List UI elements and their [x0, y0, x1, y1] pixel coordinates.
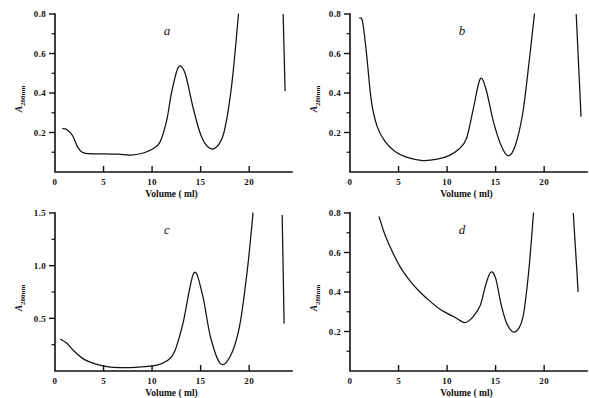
panel-a-ytick-label: 0.4 [34, 88, 46, 98]
panel-a: 0.20.40.60.805101520Volume ( ml)A280nma [0, 0, 294, 199]
panel-a-axes [55, 14, 292, 172]
panel-d-ytick-label: 0.6 [329, 248, 341, 258]
panel-d-plot: 0.20.40.60.805101520Volume ( ml)A280nmd [295, 199, 589, 398]
panel-a-letter: a [164, 23, 171, 38]
panel-b-ytick-label: 0.4 [329, 88, 341, 98]
panel-a-xtick-label: 20 [244, 177, 254, 187]
panel-d-curve [379, 213, 533, 332]
panel-a-xaxis-title: Volume ( ml) [145, 189, 197, 199]
panel-b: 0.20.40.60.805101520Volume ( ml)A280nmb [295, 0, 589, 199]
panel-d: 0.20.40.60.805101520Volume ( ml)A280nmd [295, 199, 589, 398]
panel-d-detached-segment [573, 213, 578, 292]
panel-b-ytick-label: 0.6 [329, 49, 341, 59]
panel-b-xtick-label: 15 [491, 177, 501, 187]
panel-c-xtick-label: 5 [101, 376, 106, 386]
panel-a-yaxis-title: A280nm [14, 86, 27, 114]
svg-text:A280nm: A280nm [14, 285, 27, 313]
panel-c-axes [55, 213, 292, 371]
panel-c-letter: c [164, 222, 170, 237]
panel-d-xaxis-title: Volume ( ml) [440, 388, 492, 398]
panel-c-ytick-label: 0.5 [34, 314, 46, 324]
panel-d-xtick-label: 0 [348, 376, 353, 386]
panel-c-curve [61, 213, 253, 368]
panel-b-ytick-label: 0.8 [329, 9, 341, 19]
panel-a-xtick-label: 15 [196, 177, 206, 187]
panel-d-xtick-label: 10 [442, 376, 452, 386]
panel-d-ytick-label: 0.8 [329, 208, 341, 218]
panel-a-curve [63, 14, 239, 155]
panel-b-curve [360, 14, 535, 161]
panel-a-xtick-label: 10 [147, 177, 157, 187]
panel-b-yaxis-title: A280nm [309, 86, 322, 114]
panel-a-xtick-label: 0 [53, 177, 58, 187]
svg-text:A280nm: A280nm [309, 285, 322, 313]
panel-b-xaxis-title: Volume ( ml) [440, 189, 492, 199]
panel-b-xtick-label: 0 [348, 177, 353, 187]
panel-c-xaxis-title: Volume ( ml) [145, 388, 197, 398]
panel-b-xtick-label: 20 [539, 177, 549, 187]
panel-c-xtick-label: 0 [53, 376, 58, 386]
panel-d-xtick-label: 5 [396, 376, 401, 386]
panel-b-xtick-label: 10 [442, 177, 452, 187]
panel-b-detached-segment [576, 14, 581, 117]
svg-text:A280nm: A280nm [309, 86, 322, 114]
panel-b-letter: b [459, 23, 466, 38]
panel-a-detached-segment [283, 14, 285, 91]
panel-c-xtick-label: 15 [196, 376, 206, 386]
panel-b-xtick-label: 5 [396, 177, 401, 187]
panel-a-ytick-label: 0.6 [34, 49, 46, 59]
panel-d-ytick-label: 0.4 [329, 287, 341, 297]
panel-c-detached-segment [282, 215, 284, 323]
panel-c-yaxis-title: A280nm [14, 285, 27, 313]
panel-d-yaxis-title: A280nm [309, 285, 322, 313]
panel-c: 0.51.01.505101520Volume ( ml)A280nmc [0, 199, 294, 398]
panel-b-plot: 0.20.40.60.805101520Volume ( ml)A280nmb [295, 0, 589, 199]
svg-text:A280nm: A280nm [14, 86, 27, 114]
panel-c-xtick-label: 10 [147, 376, 157, 386]
panel-c-ytick-label: 1.5 [34, 208, 46, 218]
panel-c-plot: 0.51.01.505101520Volume ( ml)A280nmc [0, 199, 294, 398]
panel-a-ytick-label: 0.8 [34, 9, 46, 19]
panel-d-letter: d [459, 222, 466, 237]
panel-b-axes [350, 14, 587, 172]
panel-d-ytick-label: 0.2 [329, 327, 341, 337]
panel-a-ytick-label: 0.2 [34, 128, 46, 138]
panel-c-ytick-label: 1.0 [34, 261, 46, 271]
panel-a-xtick-label: 5 [101, 177, 106, 187]
panel-c-xtick-label: 20 [244, 376, 254, 386]
panel-a-plot: 0.20.40.60.805101520Volume ( ml)A280nma [0, 0, 294, 199]
elution-profiles-figure: 0.20.40.60.805101520Volume ( ml)A280nma … [0, 0, 589, 398]
panel-d-xtick-label: 15 [491, 376, 501, 386]
panel-d-xtick-label: 20 [539, 376, 549, 386]
panel-b-ytick-label: 0.2 [329, 128, 341, 138]
